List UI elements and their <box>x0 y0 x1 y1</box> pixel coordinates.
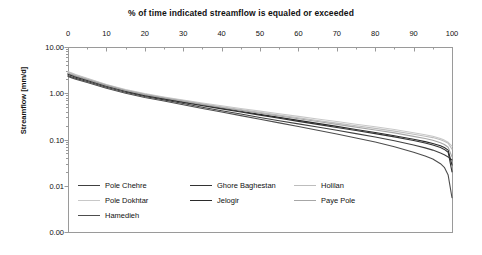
legend-line-swatch <box>190 185 212 186</box>
legend-label: Pole Dokhtar <box>105 196 148 205</box>
legend-item[interactable]: Jelogir <box>190 196 239 205</box>
chart-figure: % of time indicated streamflow is equale… <box>0 0 482 255</box>
legend-label: Hamedieh <box>105 211 139 220</box>
series-group <box>68 72 452 198</box>
series-line <box>68 76 452 160</box>
series-line <box>68 72 452 147</box>
legend-item[interactable]: Paye Pole <box>294 196 355 205</box>
legend-line-swatch <box>294 200 316 201</box>
legend-line-swatch <box>78 200 100 201</box>
legend-label: Holilan <box>321 181 344 190</box>
legend-line-swatch <box>78 185 100 186</box>
legend-item[interactable]: Holilan <box>294 181 344 190</box>
legend-item[interactable]: Hamedieh <box>78 211 139 220</box>
legend-line-swatch <box>190 200 212 201</box>
legend-item[interactable]: Pole Dokhtar <box>78 196 148 205</box>
chart-legend: Pole ChehrePole DokhtarHamediehGhore Bag… <box>78 181 378 225</box>
legend-line-swatch <box>78 215 100 216</box>
legend-label: Pole Chehre <box>105 181 147 190</box>
legend-item[interactable]: Ghore Baghestan <box>190 181 276 190</box>
legend-label: Jelogir <box>217 196 239 205</box>
legend-line-swatch <box>294 185 316 186</box>
legend-item[interactable]: Pole Chehre <box>78 181 147 190</box>
legend-label: Ghore Baghestan <box>217 181 276 190</box>
legend-label: Paye Pole <box>321 196 355 205</box>
